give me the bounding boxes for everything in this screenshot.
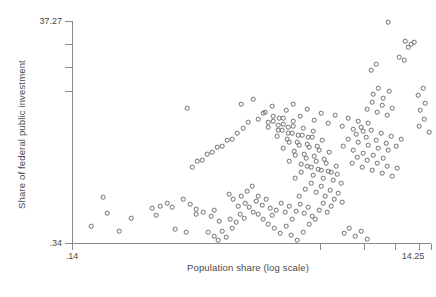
scatter-point (300, 133, 305, 138)
scatter-point (195, 159, 200, 164)
scatter-point (296, 133, 301, 138)
scatter-point (339, 181, 344, 186)
scatter-point (261, 111, 266, 116)
scatter-point (251, 210, 256, 215)
scatter-point (304, 156, 309, 161)
scatter-point (390, 174, 395, 179)
scatter-point (205, 152, 210, 157)
scatter-point (369, 68, 374, 73)
scatter-point (250, 184, 255, 189)
scatter-point (268, 206, 273, 211)
scatter-point (351, 148, 356, 153)
scatter-point (286, 125, 291, 130)
scatter-point (291, 119, 296, 124)
scatter-point (350, 161, 355, 166)
scatter-point (302, 211, 307, 216)
scatter-point (359, 125, 364, 130)
scatter-point (302, 152, 307, 157)
scatter-point (374, 62, 379, 67)
x-axis-line (72, 243, 431, 244)
scatter-point (324, 161, 329, 166)
scatter-point (158, 204, 163, 209)
scatter-point (305, 164, 310, 169)
scatter-point (311, 129, 316, 134)
y-axis-tick (65, 91, 72, 92)
scatter-point (402, 58, 407, 63)
scatter-point (305, 107, 310, 112)
scatter-point (281, 116, 286, 121)
scatter-point (217, 219, 222, 224)
scatter-point (239, 194, 244, 199)
scatter-point (306, 135, 311, 140)
scatter-point (375, 110, 380, 115)
scatter-point (386, 148, 391, 153)
scatter-point (361, 151, 366, 156)
scatter-point (292, 149, 297, 154)
scatter-point (276, 128, 281, 133)
scatter-point (361, 129, 366, 134)
scatter-point (365, 237, 370, 242)
scatter-point (293, 153, 298, 158)
scatter-point (312, 154, 317, 159)
scatter-point (299, 162, 304, 167)
scatter-point (323, 194, 328, 199)
scatter-point (360, 165, 365, 170)
scatter-point (298, 202, 303, 207)
scatter-point (276, 123, 281, 128)
scatter-point (280, 128, 285, 133)
scatter-point (342, 231, 347, 236)
scatter-point (285, 137, 290, 142)
scatter-point (238, 212, 243, 217)
scatter-point (421, 86, 426, 91)
scatter-point (291, 102, 296, 107)
scatter-point (366, 143, 371, 148)
x-axis-tick-major-left (72, 244, 73, 250)
scatter-point (307, 222, 312, 227)
scatter-point (225, 138, 230, 143)
scatter-point (266, 125, 271, 130)
scatter-point (309, 181, 314, 186)
scatter-point (194, 207, 199, 212)
scatter-point (154, 213, 159, 218)
scatter-point (277, 116, 282, 121)
scatter-point (335, 172, 340, 177)
scatter-point (260, 203, 265, 208)
scatter-point (365, 158, 370, 163)
scatter-point (336, 191, 341, 196)
scatter-point (220, 144, 225, 149)
scatter-point (212, 234, 217, 239)
scatter-point (406, 45, 411, 50)
scatter-point (380, 103, 385, 108)
scatter-point (215, 145, 220, 150)
x-axis-title: Population share (log scale) (60, 262, 436, 273)
scatter-point (284, 108, 289, 113)
scatter-point (150, 206, 155, 211)
scatter-point (371, 92, 376, 97)
scatter-point (403, 39, 408, 44)
scatter-point (264, 197, 269, 202)
scatter-point (261, 217, 266, 222)
scatter-point (89, 224, 94, 229)
scatter-point (399, 137, 404, 142)
scatter-point (326, 169, 331, 174)
scatter-point (247, 205, 252, 210)
scatter-point (294, 209, 299, 214)
scatter-point (395, 166, 400, 171)
scatter-point (117, 229, 122, 234)
scatter-point (184, 230, 189, 235)
scatter-plot-figure: Share of federal public investment Popul… (0, 0, 436, 297)
x-axis-tick-label-max: 14.25 (402, 251, 425, 261)
scatter-point (246, 120, 251, 125)
scatter-point (416, 93, 421, 98)
scatter-point (355, 155, 360, 160)
scatter-point (390, 106, 395, 111)
scatter-point (295, 238, 300, 243)
y-axis-title: Share of federal public investment (16, 35, 27, 235)
y-axis-tick-major-bottom (65, 243, 72, 244)
scatter-point (256, 212, 261, 217)
scatter-point (341, 144, 346, 149)
scatter-point (129, 216, 134, 221)
x-axis-tick (364, 244, 365, 250)
scatter-point (326, 121, 331, 126)
scatter-point (347, 226, 352, 231)
